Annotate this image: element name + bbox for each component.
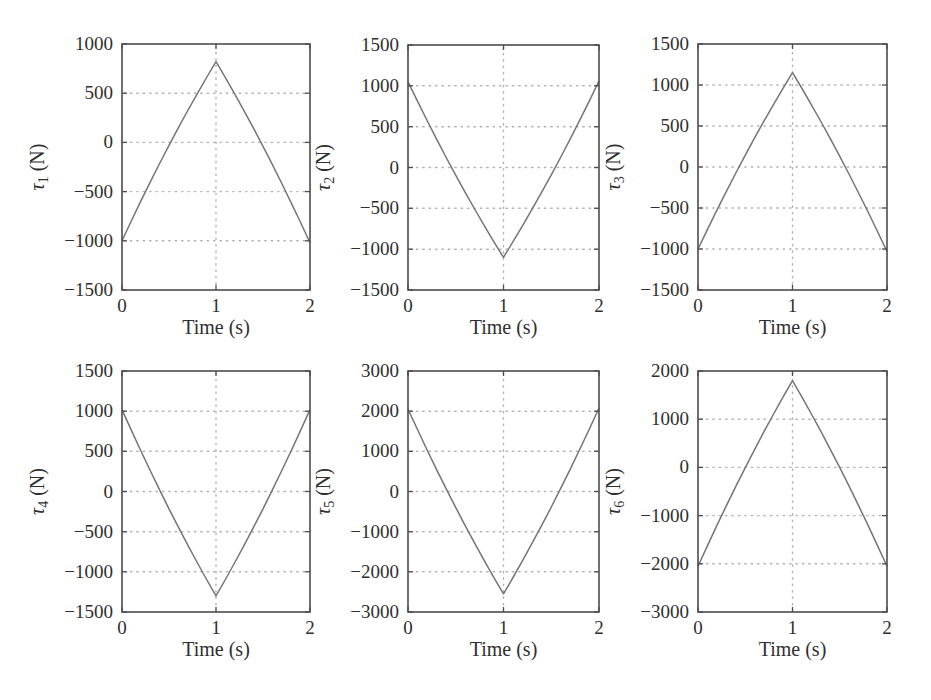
xtick-label: 1 [499, 295, 509, 316]
xtick-label: 2 [305, 295, 315, 316]
tick-labels-tau5: 0123000200010000−1000−2000−3000 [350, 360, 603, 638]
grid-tau2 [410, 47, 597, 288]
xtick-label: 2 [594, 617, 604, 638]
subplot-tau2: 012150010005000−500−1000−1500Time (s)τ2 … [312, 34, 604, 339]
xtick-label: 0 [693, 295, 703, 316]
xlabel-tau2: Time (s) [470, 316, 538, 339]
ytick-label: 0 [104, 131, 114, 152]
xtick-label: 1 [499, 617, 509, 638]
xlabel-tau6: Time (s) [759, 638, 827, 661]
ytick-label: 500 [371, 116, 400, 137]
ytick-label: 0 [680, 456, 690, 477]
ytick-label: 0 [680, 156, 690, 177]
ytick-label: 1000 [651, 74, 689, 95]
ytick-label: 2000 [361, 400, 399, 421]
ytick-label: −500 [74, 521, 113, 542]
subplot-tau1: 01210005000−500−1000−1500Time (s)τ1 (N) [26, 33, 315, 339]
ytick-label: 0 [390, 157, 400, 178]
xtick-label: 1 [788, 295, 798, 316]
ytick-label: 500 [661, 115, 690, 136]
grid-tau4 [124, 373, 308, 610]
xlabel-tau1: Time (s) [182, 316, 250, 339]
subplot-tau3: 012150010005000−500−1000−1500Time (s)τ3 … [602, 33, 892, 339]
xlabel-tau5: Time (s) [470, 638, 538, 661]
xtick-label: 0 [693, 617, 703, 638]
ytick-label: −2000 [640, 553, 689, 574]
ytick-label: −1000 [640, 505, 689, 526]
tick-marks-tau6 [698, 371, 887, 612]
tick-labels-tau6: 012200010000−1000−2000−3000 [640, 360, 891, 638]
xtick-label: 0 [403, 617, 413, 638]
grid-tau6 [700, 373, 885, 610]
ytick-label: −1500 [640, 279, 689, 300]
xtick-label: 0 [117, 295, 127, 316]
ylabel-tau3: τ3 (N) [602, 144, 627, 191]
ytick-label: −3000 [640, 601, 689, 622]
ylabel-tau1: τ1 (N) [26, 144, 51, 191]
torque-figure-page: 01210005000−500−1000−1500Time (s)τ1 (N) … [0, 0, 931, 700]
ytick-label: 1000 [651, 408, 689, 429]
xlabel-tau4: Time (s) [182, 638, 250, 661]
tick-labels-tau3: 012150010005000−500−1000−1500 [640, 33, 891, 316]
xtick-label: 0 [403, 295, 413, 316]
ytick-label: 1000 [361, 440, 399, 461]
ytick-label: 2000 [651, 360, 689, 381]
ylabel-tau2: τ2 (N) [312, 144, 337, 191]
ytick-label: −1500 [64, 601, 113, 622]
ytick-label: 1500 [75, 360, 113, 381]
subplot-tau4: 012150010005000−500−1000−1500Time (s)τ4 … [26, 360, 315, 661]
grid-tau5 [410, 373, 597, 610]
ytick-label: 1000 [361, 75, 399, 96]
xlabel-tau3: Time (s) [759, 316, 827, 339]
ytick-label: −1000 [64, 561, 113, 582]
ytick-label: 500 [85, 440, 114, 461]
ytick-label: 1500 [651, 33, 689, 54]
ytick-label: 0 [104, 481, 114, 502]
ytick-label: −1000 [350, 521, 399, 542]
subplot-tau5: 0123000200010000−1000−2000−3000Time (s)τ… [312, 360, 604, 661]
tick-labels-tau2: 012150010005000−500−1000−1500 [350, 34, 603, 316]
ylabel-tau5: τ5 (N) [312, 468, 337, 515]
ytick-label: −500 [650, 197, 689, 218]
xtick-label: 2 [882, 295, 892, 316]
ytick-label: 1500 [361, 34, 399, 55]
ytick-label: −1000 [64, 230, 113, 251]
ytick-label: −500 [360, 197, 399, 218]
xtick-label: 2 [594, 295, 604, 316]
tick-labels-tau4: 012150010005000−500−1000−1500 [64, 360, 314, 638]
ytick-label: −500 [74, 181, 113, 202]
subplot-tau6: 012200010000−1000−2000−3000Time (s)τ6 (N… [602, 360, 892, 661]
grid-tau1 [124, 46, 308, 288]
ytick-label: 500 [85, 82, 114, 103]
figure-svg: 01210005000−500−1000−1500Time (s)τ1 (N) … [0, 0, 931, 700]
ytick-label: −1000 [350, 238, 399, 259]
curve-tau6 [698, 381, 887, 567]
ytick-label: −1500 [64, 279, 113, 300]
ytick-label: −3000 [350, 601, 399, 622]
ytick-label: 1000 [75, 400, 113, 421]
ylabel-tau6: τ6 (N) [602, 468, 627, 515]
xtick-label: 1 [788, 617, 798, 638]
axes-box-tau6 [698, 371, 887, 612]
ytick-label: −1500 [350, 279, 399, 300]
ytick-label: 0 [390, 481, 400, 502]
ylabel-tau4: τ4 (N) [26, 468, 51, 515]
xtick-label: 2 [305, 617, 315, 638]
curve-tau1 [122, 62, 310, 243]
xtick-label: 0 [117, 617, 127, 638]
xtick-label: 1 [211, 617, 221, 638]
grid-tau3 [700, 46, 885, 288]
xtick-label: 1 [211, 295, 221, 316]
xtick-label: 2 [882, 617, 892, 638]
ytick-label: −1000 [640, 238, 689, 259]
ytick-label: 1000 [75, 33, 113, 54]
ytick-label: 3000 [361, 360, 399, 381]
ytick-label: −2000 [350, 561, 399, 582]
